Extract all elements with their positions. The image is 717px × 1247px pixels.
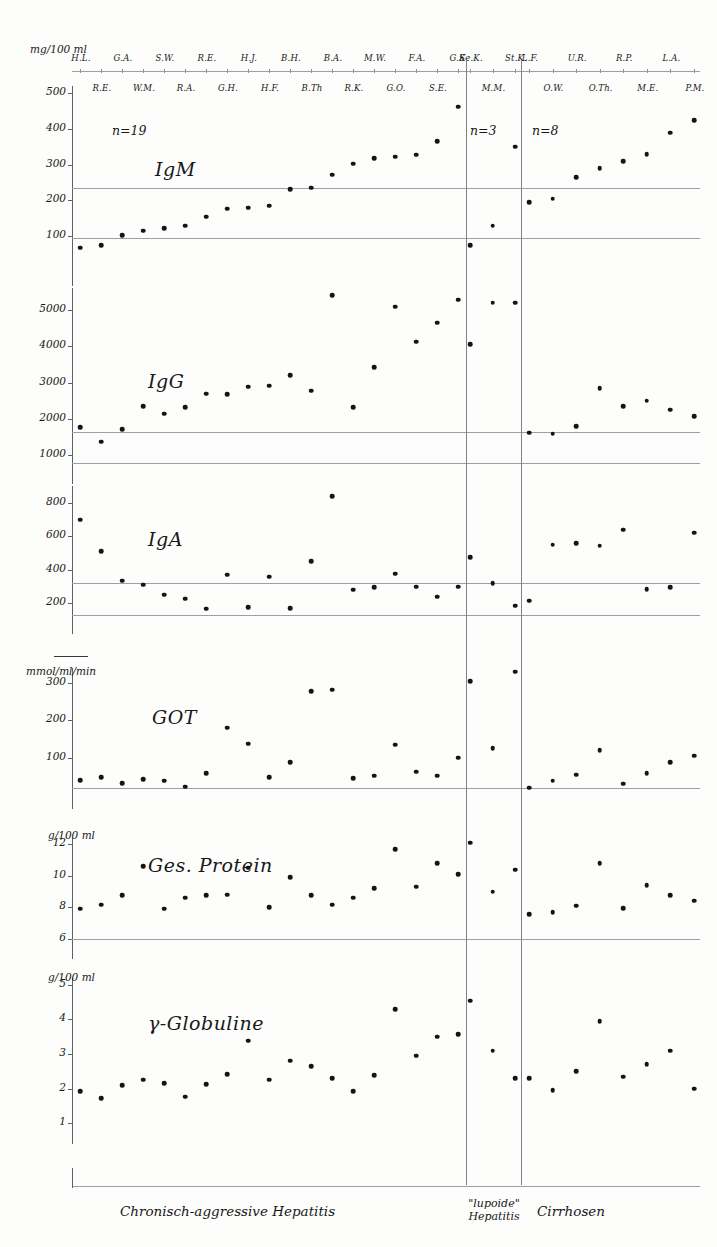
y-tick-label: 200 xyxy=(24,193,66,204)
data-point xyxy=(393,305,398,310)
data-point xyxy=(414,885,419,890)
data-point xyxy=(468,998,473,1003)
data-point xyxy=(246,384,251,389)
data-point xyxy=(456,297,461,302)
panel-title-3: GOT xyxy=(152,708,197,727)
y-tick-label: 300 xyxy=(24,158,66,169)
y-tick-label: 4 xyxy=(24,1012,66,1023)
y-tick xyxy=(68,419,73,420)
data-point xyxy=(267,775,272,780)
header-tick xyxy=(458,69,459,73)
data-point xyxy=(183,596,188,601)
header-tick xyxy=(374,69,375,73)
data-point xyxy=(621,1074,626,1079)
data-point xyxy=(141,777,146,782)
group-label-1-line2: Hepatitis xyxy=(468,1210,519,1223)
data-point xyxy=(351,161,356,166)
y-tick xyxy=(68,570,73,571)
data-point xyxy=(513,145,518,150)
data-point xyxy=(372,1073,377,1078)
data-point xyxy=(393,847,398,852)
data-point xyxy=(351,1089,356,1094)
data-point xyxy=(351,405,356,410)
y-tick-label: 1000 xyxy=(24,448,66,459)
data-point xyxy=(309,388,314,393)
y-tick-label: 4000 xyxy=(24,339,66,350)
patient-label-bottom: G.O. xyxy=(382,84,410,93)
patient-label-top: H.J. xyxy=(235,54,263,63)
data-point xyxy=(351,776,356,781)
patient-label-bottom: M.M. xyxy=(480,84,508,93)
data-point xyxy=(490,223,495,228)
data-point xyxy=(490,1048,495,1053)
data-point xyxy=(309,893,314,898)
patient-label-top: Se.K. xyxy=(457,54,485,63)
panel-title-0: IgM xyxy=(155,160,196,179)
data-point xyxy=(162,226,167,231)
data-point xyxy=(468,555,473,560)
data-point xyxy=(288,187,293,192)
data-point xyxy=(330,172,335,177)
patient-label-bottom: O.Th. xyxy=(587,84,615,93)
header-tick xyxy=(332,69,333,73)
data-point xyxy=(597,386,602,391)
y-tick xyxy=(68,758,73,759)
data-point xyxy=(435,594,440,599)
data-point xyxy=(267,204,272,209)
data-point xyxy=(490,889,495,894)
header-tick xyxy=(694,69,695,73)
y-tick-label: 2 xyxy=(24,1082,66,1093)
data-point xyxy=(372,156,377,161)
y-tick-label: 8 xyxy=(24,900,66,911)
data-point xyxy=(527,785,532,790)
data-point xyxy=(288,1059,293,1064)
y-tick xyxy=(68,907,73,908)
y-tick-label: 100 xyxy=(24,751,66,762)
data-point xyxy=(597,543,602,548)
data-point xyxy=(330,494,335,499)
data-point xyxy=(225,892,230,897)
data-point xyxy=(393,1007,398,1012)
y-tick xyxy=(68,455,73,456)
data-point xyxy=(162,1081,167,1086)
y-tick-label: 200 xyxy=(24,596,66,607)
reference-line xyxy=(72,432,700,433)
data-point xyxy=(574,903,579,908)
header-tick xyxy=(493,69,494,73)
y-tick xyxy=(68,683,73,684)
data-point xyxy=(414,770,419,775)
data-point xyxy=(246,741,251,746)
data-point xyxy=(141,404,146,409)
data-point xyxy=(372,365,377,370)
data-point xyxy=(456,872,461,877)
data-point xyxy=(692,118,697,123)
header-tick xyxy=(623,69,624,73)
y-tick-label: 400 xyxy=(24,563,66,574)
data-point xyxy=(414,584,419,589)
data-point xyxy=(99,775,104,780)
y-tick xyxy=(68,236,73,237)
data-point xyxy=(527,598,532,603)
y-tick xyxy=(68,93,73,94)
data-point xyxy=(267,383,272,388)
data-point xyxy=(456,755,461,760)
group-label-1-line1: "lupoide" xyxy=(468,1197,519,1210)
y-tick-label: 600 xyxy=(24,529,66,540)
data-point xyxy=(372,585,377,590)
header-rule xyxy=(72,71,700,72)
y-tick xyxy=(68,536,73,537)
reference-line xyxy=(72,788,700,789)
data-point xyxy=(267,1078,272,1083)
unit-text: g/100 ml xyxy=(48,971,95,983)
y-axis-2 xyxy=(72,486,73,634)
y-tick-label: 500 xyxy=(24,86,66,97)
header-tick xyxy=(670,69,671,73)
data-point xyxy=(141,1078,146,1083)
y-tick-label: 1 xyxy=(24,1116,66,1127)
data-point xyxy=(288,606,293,611)
data-point xyxy=(490,746,495,751)
data-point xyxy=(99,439,104,444)
data-point xyxy=(246,1039,251,1044)
header-tick xyxy=(185,69,186,73)
data-point xyxy=(288,760,293,765)
